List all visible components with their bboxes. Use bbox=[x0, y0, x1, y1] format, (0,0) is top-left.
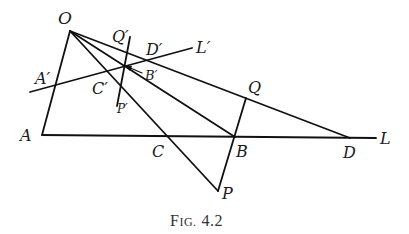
label-O: O bbox=[58, 8, 72, 28]
caption-smallcaps: IG. bbox=[179, 215, 196, 229]
label-B: B bbox=[235, 142, 248, 161]
label-D-prime: D′ bbox=[145, 40, 163, 59]
label-A: A bbox=[18, 126, 32, 145]
figure-caption: FIG.4.2 bbox=[170, 212, 223, 229]
label-B-prime: B′ bbox=[144, 68, 158, 83]
label-D: D bbox=[342, 143, 356, 162]
label-C-prime: C′ bbox=[92, 79, 108, 98]
label-Q: Q bbox=[248, 78, 261, 97]
line-L bbox=[42, 135, 376, 138]
caption-number: 4.2 bbox=[202, 212, 224, 229]
label-Q-prime: Q′ bbox=[112, 27, 129, 46]
label-C: C bbox=[152, 142, 164, 161]
line-L-prime bbox=[30, 48, 192, 92]
label-L-prime: L′ bbox=[195, 38, 211, 57]
label-P-prime: P′ bbox=[116, 102, 128, 116]
caption-prefix: F bbox=[170, 212, 179, 229]
segment-P-prime-Q-prime bbox=[117, 37, 130, 106]
label-A-prime: A′ bbox=[33, 69, 51, 88]
label-L: L bbox=[379, 129, 391, 148]
figure-4-2-diagram: O A C B D L P Q A′ C′ B′ D′ L′ P′ Q′ FIG… bbox=[0, 0, 409, 234]
label-P: P bbox=[221, 184, 233, 203]
